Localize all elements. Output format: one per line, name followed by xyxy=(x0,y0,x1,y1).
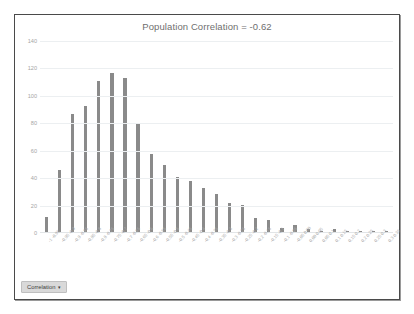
bar-slot xyxy=(249,41,262,232)
bar[interactable] xyxy=(123,78,126,232)
y-axis-tick: 80 xyxy=(31,120,37,126)
bar-slot xyxy=(132,41,145,232)
x-label-slot: 0.25 0.3 xyxy=(367,235,380,285)
x-label-slot: -0.45 -0.4 xyxy=(184,235,197,285)
chart-title: Population Correlation = -0.62 xyxy=(15,21,399,32)
bar-slot xyxy=(367,41,380,232)
bar[interactable] xyxy=(97,81,100,232)
chart-frame: Population Correlation = -0.62 020406080… xyxy=(14,14,400,300)
bar-slot xyxy=(341,41,354,232)
x-label-slot: -0.75 -0.7 xyxy=(105,235,118,285)
gridline xyxy=(40,178,393,179)
bar-slot xyxy=(380,41,393,232)
x-label-slot: -0.05 0.00 xyxy=(288,235,301,285)
gridline xyxy=(40,68,393,69)
x-label-slot: -0.85 -0.8 xyxy=(79,235,92,285)
bar[interactable] xyxy=(45,217,48,232)
x-label-slot: -0.9 -0.85 xyxy=(66,235,79,285)
x-label-slot: 0.1 0.15 xyxy=(328,235,341,285)
bar[interactable] xyxy=(150,154,153,232)
bar-slot xyxy=(79,41,92,232)
legend-filter-button[interactable]: Correlation ▾ xyxy=(21,281,67,293)
x-label-slot: 0.05 0.1 xyxy=(315,235,328,285)
x-label-slot: -0.3 -0.25 xyxy=(223,235,236,285)
x-label-slot: 0.15 0.2 xyxy=(341,235,354,285)
y-axis-tick: 140 xyxy=(28,38,37,44)
plot-area: 020406080100120140 -1 -0.95-0.95 -0.9-0.… xyxy=(15,41,401,257)
bar-slot xyxy=(223,41,236,232)
y-axis-tick: 0 xyxy=(34,230,37,236)
y-axis-tick: 120 xyxy=(28,65,37,71)
chevron-down-icon: ▾ xyxy=(58,285,61,290)
x-label-slot: -0.95 -0.9 xyxy=(53,235,66,285)
bar-slot xyxy=(92,41,105,232)
x-label-slot: -0.1 -0.05 xyxy=(275,235,288,285)
bar-slot xyxy=(315,41,328,232)
x-axis-labels: -1 -0.95-0.95 -0.9-0.9 -0.85-0.85 -0.8-0… xyxy=(40,235,393,285)
gridline xyxy=(40,96,393,97)
plot-canvas xyxy=(40,41,393,233)
x-label-slot: -0.15 -0.1 xyxy=(262,235,275,285)
x-label-slot: -0.4 -0.35 xyxy=(197,235,210,285)
bar[interactable] xyxy=(84,106,87,232)
bar-slot xyxy=(53,41,66,232)
x-label-slot: -0.35 -0.3 xyxy=(210,235,223,285)
y-axis-tick: 100 xyxy=(28,93,37,99)
x-label-slot: -1 -0.95 xyxy=(40,235,53,285)
x-label-slot: 0.00 0.05 xyxy=(302,235,315,285)
bar-slot xyxy=(354,41,367,232)
bar-slot xyxy=(184,41,197,232)
bar-slot xyxy=(158,41,171,232)
bar-slot xyxy=(302,41,315,232)
legend-label: Correlation xyxy=(27,284,55,290)
y-axis-tick: 60 xyxy=(31,148,37,154)
bar-slot xyxy=(197,41,210,232)
bar-slot xyxy=(236,41,249,232)
gridline xyxy=(40,151,393,152)
gridline xyxy=(40,206,393,207)
x-label-slot: 0.2 0.25 xyxy=(354,235,367,285)
x-label-slot: 0.3 0.35 xyxy=(380,235,393,285)
y-axis-tick: 40 xyxy=(31,175,37,181)
bar-slot xyxy=(288,41,301,232)
bar[interactable] xyxy=(58,170,61,232)
y-axis-labels: 020406080100120140 xyxy=(15,41,39,233)
gridline xyxy=(40,123,393,124)
bar-slot xyxy=(275,41,288,232)
gridline xyxy=(40,41,393,42)
bar-slot xyxy=(171,41,184,232)
bar-slot xyxy=(40,41,53,232)
x-label-slot: -0.25 -0.2 xyxy=(236,235,249,285)
x-label-slot: -0.2 -0.15 xyxy=(249,235,262,285)
bar-slot xyxy=(145,41,158,232)
x-label-slot: -0.6 -0.55 xyxy=(145,235,158,285)
bar-series xyxy=(40,41,393,232)
bar[interactable] xyxy=(163,165,166,232)
bar-slot xyxy=(262,41,275,232)
x-label-slot: -0.55 -0.5 xyxy=(158,235,171,285)
bar[interactable] xyxy=(189,181,192,232)
bar[interactable] xyxy=(71,114,74,232)
bar-slot xyxy=(210,41,223,232)
x-label-slot: -0.7 -0.65 xyxy=(118,235,131,285)
x-label-slot: -0.8 -0.75 xyxy=(92,235,105,285)
y-axis-tick: 20 xyxy=(31,203,37,209)
bar-slot xyxy=(328,41,341,232)
bar-slot xyxy=(66,41,79,232)
bar-slot xyxy=(118,41,131,232)
x-label-slot: -0.65 -0.6 xyxy=(132,235,145,285)
x-label-slot: -0.5 -0.45 xyxy=(171,235,184,285)
bar-slot xyxy=(105,41,118,232)
